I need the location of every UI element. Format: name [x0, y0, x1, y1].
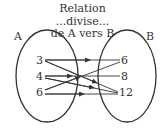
set-b-label: B — [146, 30, 154, 43]
set-a-label: A — [14, 30, 22, 43]
set-a-element: 4 — [36, 71, 43, 82]
set-b-element: 6 — [121, 55, 128, 66]
set-b-element: 8 — [121, 71, 128, 82]
title-line-2: ...divise... — [0, 16, 165, 27]
set-a-element: 6 — [36, 87, 43, 98]
set-b-element: 12 — [119, 87, 133, 98]
set-a-element: 3 — [36, 55, 43, 66]
title-line-1: Relation — [0, 3, 165, 14]
title-line-3: de A vers B — [0, 28, 165, 39]
